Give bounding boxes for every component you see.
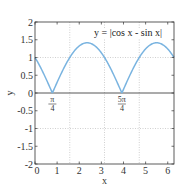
x-tick-label: 5: [143, 165, 148, 176]
annotation-denominator: 4: [120, 104, 124, 113]
x-tick-label: 1: [55, 165, 60, 176]
y-tick-label: 0: [28, 88, 33, 99]
x-tick-label: 0: [35, 165, 40, 176]
y-tick-label: -0.5: [17, 105, 33, 116]
annotation-denominator: 4: [50, 104, 54, 113]
pi-annotations: π45π4: [48, 95, 126, 113]
annotation-numerator: π: [50, 95, 54, 104]
annotation-numerator: 5π: [118, 95, 126, 104]
y-tick-label: 1: [28, 52, 33, 63]
y-tick-label: 1.5: [21, 34, 34, 45]
y-tick-label: -1: [25, 123, 33, 134]
y-tick-label: -1.5: [17, 141, 33, 152]
y-tick-label: 2: [28, 17, 33, 28]
x-tick-label: 2: [77, 165, 82, 176]
x-axis-label: x: [102, 175, 107, 186]
x-tick-label: 6: [165, 165, 170, 176]
y-tick-label: -2: [25, 159, 33, 170]
chart-title: y = |cos x - sin x|: [94, 27, 162, 38]
y-axis-label: y: [4, 91, 15, 96]
chart: 0123456 -2-1.5-1-0.500.511.52 π45π4 y = …: [0, 0, 181, 194]
x-tick-label: 4: [121, 165, 126, 176]
y-tick-label: 0.5: [21, 70, 34, 81]
y-tick-labels: -2-1.5-1-0.500.511.52: [17, 17, 33, 170]
